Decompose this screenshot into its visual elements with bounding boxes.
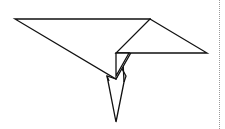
dotted-divider [219, 0, 220, 129]
origami-figure [0, 0, 225, 129]
